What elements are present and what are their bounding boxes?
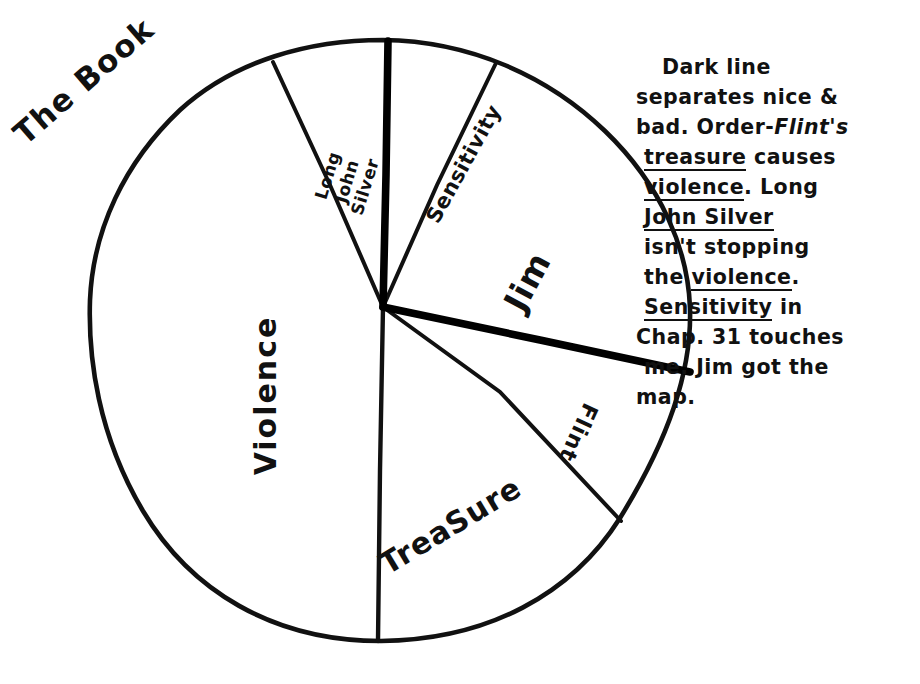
annotation-line: Dark line xyxy=(636,52,914,82)
divider-violence-treasure xyxy=(378,307,383,641)
annotation-line: John Silver xyxy=(636,202,914,232)
annotation-text: causes xyxy=(746,145,836,169)
annotation-line: me. Jim got the xyxy=(636,352,914,382)
annotation-line: Sensitivity in xyxy=(636,292,914,322)
annotation-text: Sensitivity xyxy=(644,295,772,321)
annotation-text: the xyxy=(644,265,691,289)
annotation-line: isn't stopping xyxy=(636,232,914,262)
annotation-text: in xyxy=(772,295,802,319)
annotation-text: bad. Order- xyxy=(636,115,774,139)
annotation-text: . xyxy=(792,265,800,289)
annotation-line: treasure causes xyxy=(636,142,914,172)
dark-separator-line-vertical xyxy=(383,41,388,307)
divider-violence-longjohnsilver xyxy=(273,62,383,307)
pie-chart-canvas: The Book Violence TreaSure Flint Jim Sen… xyxy=(0,0,920,684)
annotation-text: Chap. 31 touches xyxy=(636,325,844,349)
annotation-text: treasure xyxy=(644,145,746,171)
annotation-line: the violence. xyxy=(636,262,914,292)
divider-jimflint-treasure xyxy=(383,307,621,521)
annotation-line: map. xyxy=(636,382,914,412)
annotation-text: violence xyxy=(691,265,791,291)
annotation-text: Flint's xyxy=(774,115,848,139)
annotation-text: isn't stopping xyxy=(644,235,810,259)
annotation-text: separates nice & xyxy=(636,85,838,109)
annotation-line: bad. Order-Flint's xyxy=(636,112,914,142)
annotation-text: map. xyxy=(636,385,696,409)
annotation-line: separates nice & xyxy=(636,82,914,112)
annotation-text: John Silver xyxy=(644,205,774,231)
annotation-text: violence xyxy=(644,175,744,201)
annotation-text: me. Jim got the xyxy=(644,355,829,379)
annotation-text: . Long xyxy=(744,175,818,199)
annotation-note: Dark lineseparates nice &bad. Order-Flin… xyxy=(636,52,914,412)
annotation-text: Dark line xyxy=(662,55,771,79)
annotation-line: violence. Long xyxy=(636,172,914,202)
divider-sensitivity-jim xyxy=(383,63,496,307)
annotation-line: Chap. 31 touches xyxy=(636,322,914,352)
